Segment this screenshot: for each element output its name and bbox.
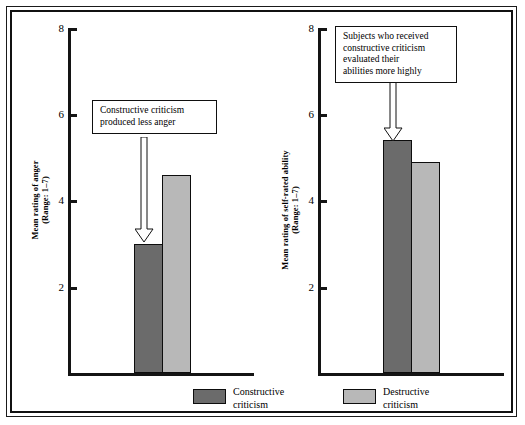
legend-swatch-destructive <box>343 389 376 404</box>
legend-item-destructive[interactable]: Destructive criticism <box>343 386 493 416</box>
y-tick-left-2 <box>68 287 77 290</box>
annotation-arrow-anger <box>135 137 165 247</box>
legend-swatch-constructive <box>193 389 226 404</box>
figure-container: 8 6 4 2 Mean rating of anger (Range: 1–7… <box>0 0 525 425</box>
bar-anger-constructive <box>134 244 163 373</box>
chart-panel-self-rated-ability: 8 6 4 2 Mean rating of self-rated abilit… <box>260 0 525 425</box>
y-axis-title-right-line1: Mean rating of self-rated ability <box>280 115 290 305</box>
y-axis-title-right-line2: (Range: 1–7) <box>290 115 300 305</box>
bar-anger-destructive <box>162 175 191 373</box>
y-tick-left-6 <box>68 114 77 117</box>
y-axis-title-right: Mean rating of self-rated ability (Range… <box>280 115 300 305</box>
y-tick-label-right-8: 8 <box>296 23 314 34</box>
y-tick-label-left-8: 8 <box>46 23 64 34</box>
y-tick-right-2 <box>318 287 327 290</box>
annotation-callout-anger: Constructive criticism produced less ang… <box>92 100 217 134</box>
legend-item-constructive[interactable]: Constructive criticism <box>193 386 343 416</box>
y-tick-label-left-2: 2 <box>46 282 64 293</box>
y-axis-title-left-line2: (Range: 1–7) <box>40 140 50 260</box>
chart-legend: Constructive criticism Destructive criti… <box>0 386 525 420</box>
legend-label-destructive: Destructive criticism <box>383 386 493 411</box>
annotation-ability-line1: Subjects who received <box>343 31 449 43</box>
y-axis-title-left-line1: Mean rating of anger <box>30 140 40 260</box>
x-axis-line-right <box>318 373 504 376</box>
y-tick-right-8 <box>318 28 327 31</box>
annotation-arrow-ability <box>384 78 414 146</box>
bar-ability-constructive <box>383 140 412 373</box>
y-tick-left-8 <box>68 28 77 31</box>
y-tick-right-6 <box>318 114 327 117</box>
legend-label-constructive: Constructive criticism <box>233 386 343 411</box>
annotation-anger-line2: produced less anger <box>100 117 209 129</box>
annotation-ability-line3: evaluated their <box>343 54 449 66</box>
bar-ability-destructive <box>411 162 440 373</box>
annotation-anger-line1: Constructive criticism <box>100 105 209 117</box>
y-tick-left-4 <box>68 200 77 203</box>
y-axis-title-left: Mean rating of anger (Range: 1–7) <box>30 140 50 260</box>
x-axis-line-left <box>68 373 254 376</box>
annotation-callout-ability: Subjects who received constructive criti… <box>335 26 457 83</box>
y-tick-right-4 <box>318 200 327 203</box>
annotation-ability-line2: constructive criticism <box>343 43 449 55</box>
chart-panel-anger: 8 6 4 2 Mean rating of anger (Range: 1–7… <box>0 0 265 425</box>
annotation-ability-line4: abilities more highly <box>343 66 449 78</box>
y-tick-label-left-6: 6 <box>46 109 64 120</box>
